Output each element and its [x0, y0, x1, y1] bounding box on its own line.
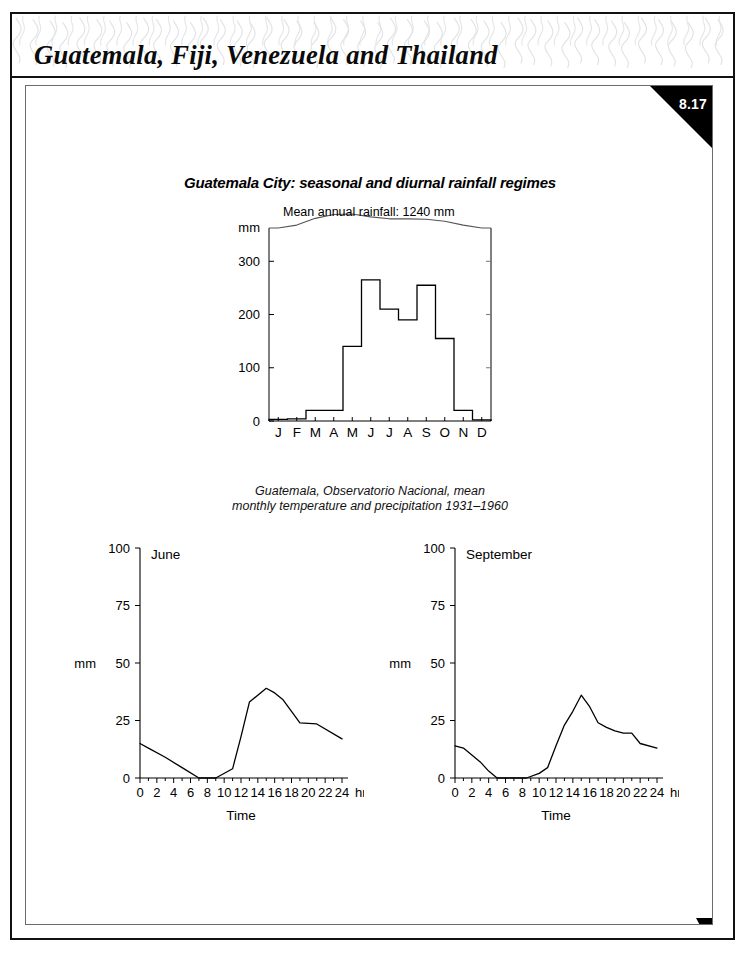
- x-axis-unit-label: hrs: [355, 785, 364, 800]
- page-header: Guatemala, Fiji, Venezuela and Thailand: [12, 14, 733, 76]
- figure-number-badge: 8.17: [650, 86, 712, 148]
- y-tick-label: 300: [238, 254, 260, 269]
- page: Guatemala, Fiji, Venezuela and Thailand …: [0, 0, 749, 960]
- x-tick-label: 14: [566, 785, 580, 800]
- y-tick-label: 0: [438, 771, 445, 786]
- month-tick-label: A: [329, 425, 338, 440]
- x-tick-label: 6: [502, 785, 509, 800]
- precipitation-step-outline: [269, 280, 491, 421]
- month-tick-label: N: [458, 425, 468, 440]
- next-page-arrow-icon[interactable]: [692, 912, 713, 925]
- x-axis-unit-label: hrs: [670, 785, 679, 800]
- x-tick-label: 8: [204, 785, 211, 800]
- x-tick-label: 24: [650, 785, 664, 800]
- x-tick-label: 16: [267, 785, 281, 800]
- y-axis-unit-label: mm: [389, 656, 411, 671]
- y-tick-label: 100: [238, 360, 260, 375]
- y-tick-label: 0: [253, 414, 260, 429]
- x-tick-label: 18: [284, 785, 298, 800]
- caption-line-2: monthly temperature and precipitation 19…: [120, 499, 620, 514]
- x-tick-label: 24: [335, 785, 349, 800]
- y-tick-label: 75: [431, 598, 445, 613]
- month-tick-label: D: [477, 425, 487, 440]
- x-tick-label: 0: [136, 785, 143, 800]
- x-tick-label: 12: [549, 785, 563, 800]
- x-tick-label: 16: [582, 785, 596, 800]
- x-axis-label: Time: [226, 808, 256, 823]
- x-tick-label: 18: [599, 785, 613, 800]
- figure-number-label: 8.17: [679, 96, 707, 112]
- x-tick-label: 4: [485, 785, 492, 800]
- month-tick-label: J: [386, 425, 393, 440]
- x-tick-label: 20: [616, 785, 630, 800]
- y-tick-label: 100: [423, 541, 445, 556]
- panel-title: June: [151, 547, 180, 562]
- header-rule: [12, 76, 733, 78]
- month-tick-label: A: [403, 425, 412, 440]
- x-tick-label: 8: [519, 785, 526, 800]
- panel-title: September: [466, 547, 533, 562]
- y-tick-label: 100: [108, 541, 130, 556]
- figure-panel: 8.17 Guatemala City: seasonal and diurna…: [25, 85, 713, 925]
- y-tick-label: 50: [116, 656, 130, 671]
- y-axis-unit-label: mm: [74, 656, 96, 671]
- x-tick-label: 2: [153, 785, 160, 800]
- june-diurnal-chart: 0255075100mm024681012141618202224hrsJune…: [54, 526, 364, 856]
- x-axis-label: Time: [541, 808, 571, 823]
- y-tick-label: 50: [431, 656, 445, 671]
- y-tick-label: 0: [123, 771, 130, 786]
- x-tick-label: 6: [187, 785, 194, 800]
- month-tick-label: S: [422, 425, 431, 440]
- diurnal-rainfall-curve: [455, 695, 657, 778]
- month-tick-label: M: [310, 425, 321, 440]
- x-tick-label: 14: [251, 785, 265, 800]
- y-tick-label: 25: [116, 713, 130, 728]
- x-tick-label: 20: [301, 785, 315, 800]
- x-tick-label: 22: [318, 785, 332, 800]
- chart-title: Guatemala City: seasonal and diurnal rai…: [26, 174, 713, 191]
- figure-caption: Guatemala, Observatorio Nacional, mean m…: [120, 484, 620, 514]
- september-diurnal-chart: 0255075100mm024681012141618202224hrsSept…: [369, 526, 679, 856]
- x-tick-label: 12: [234, 785, 248, 800]
- seasonal-rainfall-chart: 0100200300mmMean annual rainfall: 1240 m…: [191, 206, 521, 476]
- month-tick-label: O: [439, 425, 450, 440]
- mean-annual-rainfall-annotation: Mean annual rainfall: 1240 mm: [283, 206, 455, 219]
- caption-line-1: Guatemala, Observatorio Nacional, mean: [120, 484, 620, 499]
- y-tick-label: 25: [431, 713, 445, 728]
- month-tick-label: J: [367, 425, 374, 440]
- x-tick-label: 0: [451, 785, 458, 800]
- y-axis-unit-label: mm: [238, 220, 260, 235]
- x-tick-label: 4: [170, 785, 177, 800]
- y-tick-label: 200: [238, 307, 260, 322]
- x-tick-label: 22: [633, 785, 647, 800]
- x-tick-label: 10: [217, 785, 231, 800]
- month-tick-label: F: [293, 425, 301, 440]
- x-tick-label: 10: [532, 785, 546, 800]
- x-tick-label: 2: [468, 785, 475, 800]
- y-tick-label: 75: [116, 598, 130, 613]
- month-tick-label: J: [275, 425, 282, 440]
- page-title: Guatemala, Fiji, Venezuela and Thailand: [34, 40, 498, 71]
- diurnal-rainfall-curve: [140, 688, 342, 778]
- month-tick-label: M: [347, 425, 358, 440]
